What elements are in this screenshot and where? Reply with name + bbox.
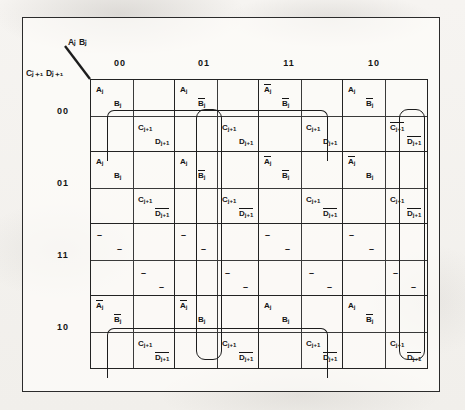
literal-Bj_bar: Bj [282,100,289,108]
literal-Cjplus1: Cj+1 [222,340,236,348]
literal-Bj: Bj [198,316,205,324]
literal-Cjplus1: Cj+1 [306,124,320,132]
kmap-cell-r10-c10[interactable]: AjBjCj+1Dj+1 [343,296,427,368]
row-header-11: 11 [50,250,76,260]
kmap-cell-r11-c00[interactable]: –––– [91,224,175,296]
kmap-cell-r11-c11[interactable]: –––– [259,224,343,296]
karnaugh-map-figure: Aⱼ Bⱼ Cⱼ₊₁ Dⱼ₊₁ 00 01 11 10 00 01 11 10 … [22,17,440,392]
literal-Djplus1_bar: Dj+1 [155,354,169,362]
kmap-cell-r01-c10[interactable]: AjBjCj+1Dj+1 [343,152,427,224]
literal-Bj: Bj [114,172,121,180]
kmap-cell-r11-c01[interactable]: –––– [175,224,259,296]
cell-horizontal-divider [175,116,258,117]
literal-Cjplus1: Cj+1 [138,124,152,132]
dont-care-marker: – [97,231,102,240]
kmap-cell-r01-c11[interactable]: AjBjCj+1Dj+1 [259,152,343,224]
cell-horizontal-divider [91,332,174,333]
kmap-cell-r10-c01[interactable]: AjBjCj+1Dj+1 [175,296,259,368]
literal-Aj_bar: Aj [348,158,355,166]
dont-care-marker: – [265,231,270,240]
dont-care-marker: – [225,269,230,278]
literal-Cjplus1: Cj+1 [138,340,152,348]
literal-Aj_bar: Aj [180,302,187,310]
literal-Aj: Aj [264,302,271,310]
dont-care-marker: – [327,283,332,292]
cell-horizontal-divider [343,188,427,189]
literal-Djplus1_bar: Dj+1 [155,210,169,218]
literal-Djplus1_bar: Dj+1 [407,210,421,218]
literal-Cjplus1: Cj+1 [306,340,320,348]
literal-Djplus1_bar: Dj+1 [239,354,253,362]
literal-Djplus1_bar: Dj+1 [407,138,421,146]
kmap-cell-r00-c11[interactable]: AjBjCj+1Dj+1 [259,80,343,152]
column-header-10: 10 [344,58,404,68]
literal-Aj: Aj [96,86,103,94]
literal-Djplus1_bar: Dj+1 [323,354,337,362]
dont-care-marker: – [411,283,416,292]
cell-horizontal-divider [259,332,342,333]
dont-care-marker: – [159,283,164,292]
cell-horizontal-divider [175,332,258,333]
dont-care-marker: – [181,231,186,240]
kmap-cell-r01-c01[interactable]: AjBjCj+1Dj+1 [175,152,259,224]
literal-Aj: Aj [180,158,187,166]
literal-Djplus1_bar: Dj+1 [323,210,337,218]
literal-Aj_bar: Aj [96,302,103,310]
cell-horizontal-divider [343,260,427,261]
row-header-00: 00 [50,106,76,116]
literal-Aj: Aj [96,158,103,166]
literal-Cjplus1: Cj+1 [306,196,320,204]
literal-Djplus1: Dj+1 [239,138,253,146]
cell-horizontal-divider [91,260,174,261]
row-header-01: 01 [50,178,76,188]
column-header-11: 11 [259,58,319,68]
cell-horizontal-divider [91,188,174,189]
literal-Bj_bar: Bj [282,172,289,180]
literal-Aj_bar: Aj [264,158,271,166]
literal-Bj: Bj [114,100,121,108]
kmap-cell-r11-c10[interactable]: –––– [343,224,427,296]
dont-care-marker: – [201,245,206,254]
cell-horizontal-divider [91,116,174,117]
literal-Djplus1: Dj+1 [155,138,169,146]
dont-care-marker: – [285,245,290,254]
literal-Cjplus1_bar: Cj+1 [390,124,404,132]
literal-Djplus1_bar: Dj+1 [239,210,253,218]
kmap-cell-r00-c00[interactable]: AjBjCj+1Dj+1 [91,80,175,152]
literal-Aj: Aj [348,86,355,94]
cell-horizontal-divider [175,188,258,189]
literal-Bj_bar: Bj [366,316,373,324]
dont-care-marker: – [309,269,314,278]
literal-Aj: Aj [180,86,187,94]
dont-care-marker: – [369,245,374,254]
dont-care-marker: – [349,231,354,240]
kmap-cell-r10-c11[interactable]: AjBjCj+1Dj+1 [259,296,343,368]
dont-care-marker: – [141,269,146,278]
kmap-cell-r00-c10[interactable]: AjBjCj+1Dj+1 [343,80,427,152]
literal-Cjplus1: Cj+1 [138,196,152,204]
cell-horizontal-divider [259,260,342,261]
literal-Bj_bar: Bj [198,172,205,180]
literal-Djplus1: Dj+1 [323,138,337,146]
column-header-01: 01 [174,58,234,68]
kmap-cell-r00-c01[interactable]: AjBjCj+1Dj+1 [175,80,259,152]
literal-Bj_bar: Bj [366,100,373,108]
cell-horizontal-divider [259,116,342,117]
axis-label-rows: Cⱼ₊₁ Dⱼ₊₁ [26,68,63,78]
literal-Bj: Bj [282,316,289,324]
dont-care-marker: – [117,245,122,254]
cell-horizontal-divider [343,116,427,117]
literal-Cjplus1: Cj+1 [390,196,404,204]
kmap-grid: AjBjCj+1Dj+1AjBjCj+1Dj+1AjBjCj+1Dj+1AjBj… [90,79,428,369]
literal-Bj_bar: Bj [198,100,205,108]
kmap-cell-r10-c00[interactable]: AjBjCj+1Dj+1 [91,296,175,368]
literal-Djplus1_bar: Dj+1 [407,354,421,362]
dont-care-marker: – [393,269,398,278]
kmap-cell-r01-c00[interactable]: AjBjCj+1Dj+1 [91,152,175,224]
row-header-10: 10 [50,322,76,332]
axis-label-columns: Aⱼ Bⱼ [68,37,88,47]
cell-horizontal-divider [259,188,342,189]
literal-Aj_bar: Aj [264,86,271,94]
literal-Aj: Aj [348,302,355,310]
literal-Cjplus1: Cj+1 [222,196,236,204]
